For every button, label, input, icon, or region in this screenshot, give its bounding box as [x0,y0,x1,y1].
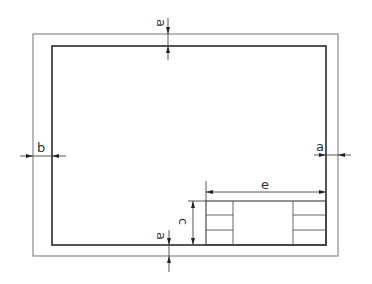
diagram-canvas: a a b a e [0,0,372,284]
left-margin-label: b [37,140,45,155]
arrow-up-icon [167,256,171,263]
arrow-up-icon [191,201,195,208]
title-block [206,201,326,245]
title-block-width-dimension: e [206,177,326,201]
inner-frame [52,46,326,245]
arrow-left-icon [206,190,213,194]
arrow-up-icon [166,46,170,53]
title-block-width-label: e [261,177,269,192]
arrow-right-icon [319,190,326,194]
drawing-frame-diagram: a a b a e [0,0,372,284]
arrow-down-icon [191,238,195,245]
arrow-right-icon [26,154,33,158]
bottom-margin-dimension: a [154,230,171,272]
title-block-border [206,201,326,245]
title-block-height-label: c [176,218,191,225]
arrow-left-icon [338,153,345,157]
bottom-margin-label: a [154,232,169,240]
right-margin-dimension: a [314,139,351,157]
right-margin-label: a [316,139,324,154]
arrow-down-icon [166,27,170,34]
title-block-height-dimension: c [176,201,206,245]
top-margin-dimension: a [154,18,170,60]
top-margin-label: a [154,19,169,27]
arrow-left-icon [52,154,59,158]
left-margin-dimension: b [20,140,66,158]
